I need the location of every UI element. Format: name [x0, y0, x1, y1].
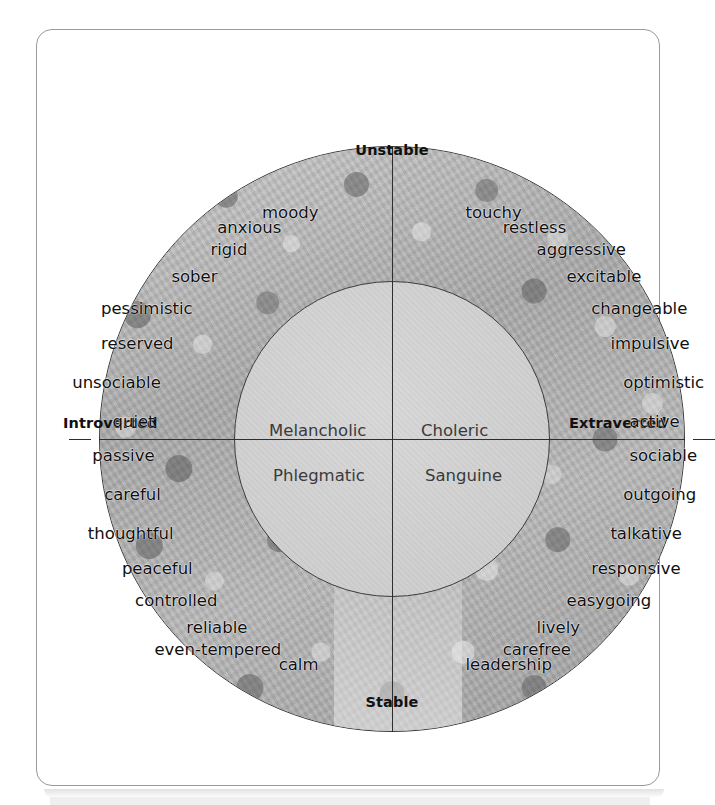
trait-word-aggressive: aggressive	[537, 242, 626, 259]
trait-word-thoughtful: thoughtful	[88, 525, 174, 542]
temperament-label-sanguine: Sanguine	[425, 466, 502, 485]
trait-word-calm: calm	[279, 657, 319, 674]
trait-word-lively: lively	[537, 620, 580, 637]
axis-tick-right	[693, 439, 715, 440]
trait-word-reserved: reserved	[101, 336, 174, 353]
eysenck-personality-circle: Unstable Stable Introverted Extraverted …	[99, 146, 685, 732]
axis-tick-left	[69, 439, 91, 440]
trait-word-controlled: controlled	[135, 593, 217, 610]
figure-frame: Unstable Stable Introverted Extraverted …	[36, 29, 660, 786]
trait-word-careful: careful	[104, 487, 161, 504]
trait-word-restless: restless	[503, 220, 567, 237]
horizontal-axis-line	[99, 439, 685, 440]
temperament-label-melancholic: Melancholic	[269, 421, 366, 440]
temperament-label-phlegmatic: Phlegmatic	[273, 466, 365, 485]
trait-word-outgoing: outgoing	[623, 487, 696, 504]
trait-word-reliable: reliable	[186, 620, 247, 637]
trait-word-leadership: leadership	[466, 657, 552, 674]
trait-word-anxious: anxious	[217, 220, 281, 237]
trait-word-sober: sober	[171, 269, 217, 286]
axis-label-unstable: Unstable	[355, 142, 428, 158]
page-bottom-band	[50, 797, 650, 805]
trait-word-unsociable: unsociable	[72, 374, 161, 391]
trait-word-passive: passive	[92, 447, 154, 464]
trait-word-optimistic: optimistic	[623, 374, 704, 391]
trait-word-pessimistic: pessimistic	[101, 301, 193, 318]
trait-word-excitable: excitable	[567, 269, 642, 286]
trait-word-responsive: responsive	[591, 561, 680, 578]
trait-word-sociable: sociable	[629, 447, 697, 464]
trait-word-talkative: talkative	[610, 525, 682, 542]
axis-label-stable: Stable	[366, 694, 419, 710]
trait-word-easygoing: easygoing	[567, 593, 652, 610]
trait-word-rigid: rigid	[210, 242, 247, 259]
trait-word-active: active	[629, 414, 679, 431]
temperament-label-choleric: Choleric	[421, 421, 488, 440]
trait-word-impulsive: impulsive	[610, 336, 689, 353]
trait-word-peaceful: peaceful	[122, 561, 193, 578]
trait-word-changeable: changeable	[591, 301, 687, 318]
trait-word-quiet: quiet	[112, 414, 154, 431]
trait-word-even-tempered: even-tempered	[154, 641, 281, 658]
